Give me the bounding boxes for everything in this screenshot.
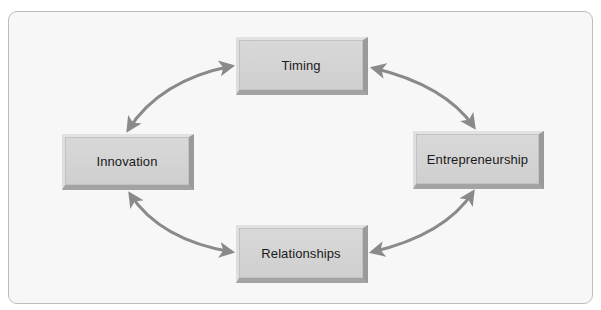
arrow-innovation-relationships <box>130 194 232 252</box>
node-timing: Timing <box>236 37 368 95</box>
node-entrepreneurship-label: Entrepreneurship <box>427 152 528 167</box>
arrow-entrepreneurship-relationships <box>372 192 473 252</box>
arrow-timing-innovation <box>128 66 232 130</box>
node-innovation-label: Innovation <box>97 154 158 169</box>
node-entrepreneurship: Entrepreneurship <box>413 131 544 189</box>
node-relationships-label: Relationships <box>261 246 340 261</box>
node-relationships: Relationships <box>236 225 368 283</box>
node-innovation: Innovation <box>62 134 194 190</box>
node-timing-label: Timing <box>281 58 320 73</box>
arrow-timing-entrepreneurship <box>373 68 474 127</box>
